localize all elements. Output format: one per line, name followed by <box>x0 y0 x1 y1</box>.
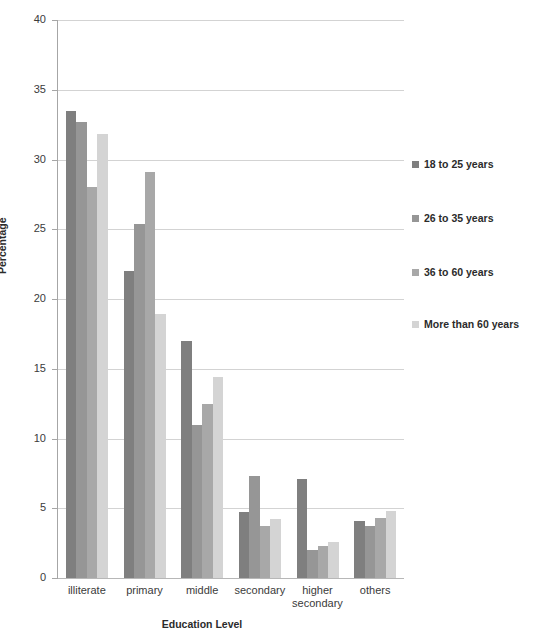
gridline <box>58 578 404 579</box>
top-edge-artifact <box>0 0 534 4</box>
bar <box>213 377 224 578</box>
bar <box>155 314 166 578</box>
bar <box>307 550 318 578</box>
y-tick-mark <box>52 20 57 21</box>
bar <box>239 512 250 578</box>
bar-group <box>354 20 396 578</box>
legend-item[interactable]: More than 60 years <box>412 318 519 330</box>
y-tick-mark <box>52 578 57 579</box>
y-tick-label: 10 <box>0 433 46 444</box>
bar <box>328 542 339 578</box>
bar <box>375 518 386 578</box>
x-axis-title: Education Level <box>0 618 404 630</box>
y-tick-mark <box>52 229 57 230</box>
y-tick-mark <box>52 508 57 509</box>
y-tick-label: 5 <box>0 502 46 513</box>
bar <box>145 172 156 578</box>
bar-group <box>297 20 339 578</box>
y-tick-label: 15 <box>0 363 46 374</box>
bar <box>297 479 308 578</box>
legend-label: 18 to 25 years <box>424 158 493 170</box>
legend-swatch-icon <box>412 269 419 276</box>
bar-group <box>239 20 281 578</box>
y-tick-label: 0 <box>0 572 46 583</box>
bar-group <box>181 20 223 578</box>
x-tick-label: higher secondary <box>289 584 347 610</box>
y-tick-mark <box>52 369 57 370</box>
x-tick-label: middle <box>173 584 231 597</box>
bar <box>134 224 145 578</box>
y-tick-mark <box>52 439 57 440</box>
bar <box>87 187 98 578</box>
bar <box>124 271 135 578</box>
y-axis-title: Percentage <box>0 217 8 274</box>
x-tick-label: secondary <box>231 584 289 597</box>
bar <box>66 111 77 578</box>
x-tick-label: illiterate <box>58 584 116 597</box>
x-tick-label: primary <box>116 584 174 597</box>
bar-group <box>66 20 108 578</box>
x-tick-label: others <box>346 584 404 597</box>
bar-group <box>124 20 166 578</box>
legend-swatch-icon <box>412 161 419 168</box>
legend-item[interactable]: 18 to 25 years <box>412 158 493 170</box>
y-tick-mark <box>52 160 57 161</box>
y-tick-label: 40 <box>0 14 46 25</box>
legend-label: More than 60 years <box>424 318 519 330</box>
y-tick-mark <box>52 90 57 91</box>
legend-label: 36 to 60 years <box>424 266 493 278</box>
legend-label: 26 to 35 years <box>424 212 493 224</box>
y-tick-label: 35 <box>0 84 46 95</box>
bar <box>260 526 271 578</box>
bar <box>97 134 108 578</box>
bar <box>202 404 213 578</box>
y-tick-label: 20 <box>0 293 46 304</box>
legend-swatch-icon <box>412 321 419 328</box>
legend-item[interactable]: 36 to 60 years <box>412 266 493 278</box>
plot-area <box>58 20 404 578</box>
bar <box>181 341 192 578</box>
bar <box>249 476 260 578</box>
bar <box>386 511 397 578</box>
bar <box>76 122 87 578</box>
bar <box>192 425 203 578</box>
y-tick-mark <box>52 299 57 300</box>
bar <box>318 546 329 578</box>
legend-item[interactable]: 26 to 35 years <box>412 212 493 224</box>
bar-chart: 0510152025303540 illiterateprimarymiddle… <box>0 0 534 636</box>
bar <box>354 521 365 578</box>
y-tick-label: 30 <box>0 154 46 165</box>
bar <box>270 519 281 578</box>
legend-swatch-icon <box>412 215 419 222</box>
bar <box>365 526 376 578</box>
